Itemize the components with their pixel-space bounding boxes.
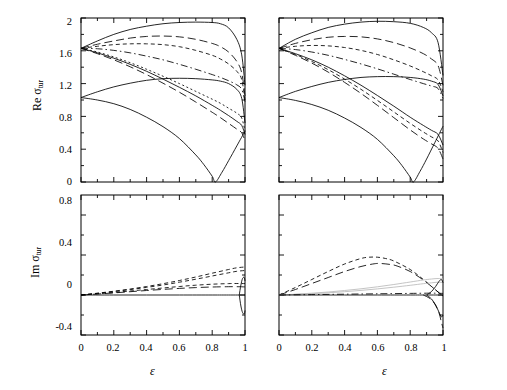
curve-top-right-H-solid-plateau (279, 77, 443, 98)
figure-canvas: Re σtur Im σtur ε ε 0 0.4 0.8 1.2 1.6 2 … (0, 0, 507, 390)
curve-bottom-left-B-shortdash-rise2 (81, 271, 245, 296)
curve-top-left-E-dotdash-fine (81, 48, 245, 131)
curve-bottom-left-D-longdash-flat (81, 287, 245, 295)
curve-top-right-E-descend-solid (279, 48, 443, 145)
panel-frame-bottom-left (81, 195, 245, 335)
curve-top-right-D-dashdot (279, 48, 443, 98)
curve-bottom-left-G-spike-down (239, 295, 245, 314)
curve-top-right-A-solid-upper (279, 21, 443, 75)
curve-top-left-F-solid-descend (81, 48, 245, 134)
curve-top-right-I-solid-zero (279, 98, 443, 183)
curve-top-left-C-shortdash (81, 44, 245, 100)
curve-bottom-right-G-spike-up-right (427, 279, 443, 295)
panel-frame-bottom-right (279, 195, 443, 335)
curve-bottom-right-I-dash-plunge (423, 295, 443, 328)
plot-svg (0, 0, 507, 390)
data-curves (81, 21, 443, 328)
panel-frame-top-right (279, 18, 443, 182)
curve-bottom-left-F-spike-up (239, 277, 245, 295)
curve-top-right-G-longdash-descend (279, 48, 443, 159)
curve-bottom-right-B-longdash-hump (279, 263, 443, 296)
curve-top-left-H-solid-plateau (81, 78, 245, 123)
curve-bottom-left-A-shortdash-rise (81, 267, 245, 295)
